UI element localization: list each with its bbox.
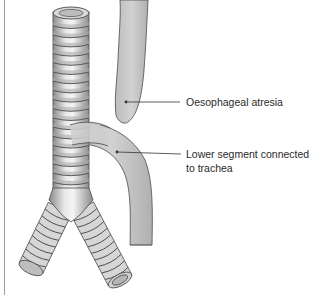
trachea-opening	[53, 7, 89, 19]
label-line: Lower segment connected	[186, 147, 309, 161]
label-line: Oesophageal atresia	[186, 95, 283, 109]
trachea	[53, 12, 89, 194]
upper-oesophageal-pouch	[115, 0, 148, 123]
label-lower-segment: Lower segment connected to trachea	[186, 147, 309, 175]
label-oesophageal-atresia: Oesophageal atresia	[186, 95, 283, 109]
label-line: to trachea	[186, 161, 309, 175]
